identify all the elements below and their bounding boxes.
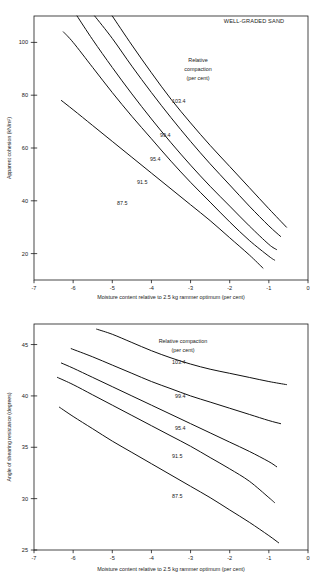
curve-label-103.4: 103.4 — [172, 98, 186, 104]
x-axis-tick-label: -7 — [32, 555, 37, 561]
curve-label-99.4: 99.4 — [160, 132, 171, 138]
x-axis-tick-label: -6 — [71, 285, 76, 291]
legend-title-line: (per cent) — [171, 347, 194, 353]
plot-frame — [34, 16, 308, 280]
data-curve-87.5 — [59, 407, 278, 543]
curve-label-87.5: 87.5 — [117, 200, 128, 206]
x-axis-tick-label: -5 — [110, 555, 115, 561]
y-axis-tick-label: 40 — [22, 198, 28, 204]
curve-label-91.5: 91.5 — [137, 179, 148, 185]
chart-panel-apparent-cohesion: -7-6-5-4-3-2-1020406080100103.499.495.49… — [0, 0, 321, 310]
legend-title-line: Relative — [188, 57, 207, 63]
x-axis-tick-label: -1 — [266, 555, 271, 561]
x-axis-title: Moisture content relative to 2.5 kg ramm… — [97, 566, 245, 572]
curve-label-87.5: 87.5 — [172, 493, 183, 499]
y-axis-tick-label: 20 — [22, 251, 28, 257]
shearing-resistance-plot: -7-6-5-4-3-2-102530354045103.499.495.491… — [0, 310, 321, 584]
data-curve-91.5 — [63, 32, 274, 260]
x-axis-tick-label: -4 — [149, 555, 154, 561]
data-curve-87.5 — [61, 100, 263, 268]
legend-title-line: Relative compaction — [159, 338, 208, 344]
y-axis-tick-label: 30 — [22, 496, 28, 502]
y-axis-title: Angle of shearing resistance (degrees) — [6, 392, 12, 481]
y-axis-tick-label: 25 — [22, 547, 28, 553]
data-curve-95.4 — [61, 363, 276, 467]
y-axis-tick-label: 40 — [22, 393, 28, 399]
x-axis-tick-label: -2 — [227, 555, 232, 561]
data-curve-103.4 — [112, 16, 286, 227]
x-axis-tick-label: -7 — [32, 285, 37, 291]
y-axis-tick-label: 100 — [19, 39, 28, 45]
figure-container: -7-6-5-4-3-2-1020406080100103.499.495.49… — [0, 0, 321, 584]
x-axis-tick-label: -4 — [149, 285, 154, 291]
y-axis-tick-label: 35 — [22, 444, 28, 450]
x-axis-tick-label: -5 — [110, 285, 115, 291]
legend-title-line: (per cent) — [186, 75, 209, 81]
x-axis-tick-label: -1 — [266, 285, 271, 291]
x-axis-tick-label: -2 — [227, 285, 232, 291]
x-axis-tick-label: -3 — [188, 555, 193, 561]
curve-label-99.4: 99.4 — [175, 393, 186, 399]
curve-label-95.4: 95.4 — [150, 156, 161, 162]
x-axis-tick-label: -6 — [71, 555, 76, 561]
x-axis-title: Moisture content relative to 2.5 kg ramm… — [97, 294, 245, 300]
x-axis-tick-label: 0 — [306, 285, 309, 291]
x-axis-tick-label: -3 — [188, 285, 193, 291]
legend-title-line: compaction — [184, 66, 212, 72]
data-curve-95.4 — [77, 16, 277, 250]
apparent-cohesion-plot: -7-6-5-4-3-2-1020406080100103.499.495.49… — [0, 0, 321, 310]
curve-label-103.4: 103.4 — [172, 359, 186, 365]
chart-panel-shearing-resistance: -7-6-5-4-3-2-102530354045103.499.495.491… — [0, 310, 321, 584]
curve-label-95.4: 95.4 — [175, 425, 186, 431]
y-axis-tick-label: 45 — [22, 342, 28, 348]
y-axis-title: Apparent cohesion (kN/m²) — [6, 117, 12, 179]
y-axis-tick-label: 80 — [22, 92, 28, 98]
x-axis-tick-label: 0 — [306, 555, 309, 561]
data-curve-91.5 — [57, 377, 274, 502]
chart-annotation: WELL-GRADED SAND — [224, 18, 285, 24]
y-axis-tick-label: 60 — [22, 145, 28, 151]
curve-label-91.5: 91.5 — [172, 453, 183, 459]
